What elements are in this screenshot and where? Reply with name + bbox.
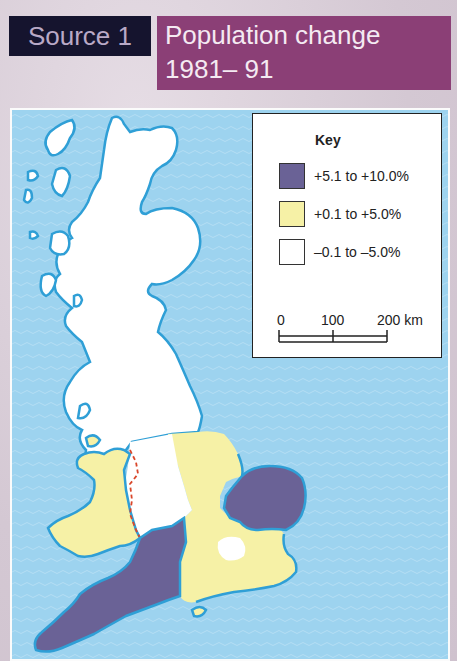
- source-label: Source 1: [9, 16, 151, 56]
- scale-tick-0: 0: [277, 312, 285, 328]
- key-label: +5.1 to +10.0%: [314, 168, 409, 184]
- key-label: –0.1 to –5.0%: [314, 244, 400, 260]
- key-item-decline: –0.1 to –5.0%: [279, 238, 400, 266]
- title-line-2: 1981– 91: [165, 52, 451, 86]
- island-arran: [74, 295, 82, 307]
- swatch-decline: [279, 239, 305, 265]
- swatch-low-growth: [279, 201, 305, 227]
- figure-title: Population change 1981– 91: [157, 16, 451, 90]
- key-item-high-growth: +5.1 to +10.0%: [279, 162, 409, 190]
- island-small-3: [30, 232, 38, 239]
- scale-tick-100: 100: [321, 312, 344, 328]
- map-key: Key +5.1 to +10.0% +0.1 to +5.0% –0.1 to…: [252, 113, 442, 358]
- island-anglesey: [86, 435, 100, 446]
- title-line-1: Population change: [165, 18, 451, 52]
- key-title: Key: [315, 132, 341, 148]
- island-mull: [50, 231, 69, 254]
- swatch-high-growth: [279, 163, 305, 189]
- scale-bar: 0 100 200 km: [277, 312, 427, 348]
- island-small-1: [28, 171, 38, 181]
- island-isle-of-wight: [192, 607, 206, 616]
- island-small-2: [24, 190, 32, 203]
- scale-bar-line: [277, 328, 427, 348]
- scale-tick-200: 200 km: [377, 312, 423, 328]
- key-item-low-growth: +0.1 to +5.0%: [279, 200, 401, 228]
- key-label: +0.1 to +5.0%: [314, 206, 401, 222]
